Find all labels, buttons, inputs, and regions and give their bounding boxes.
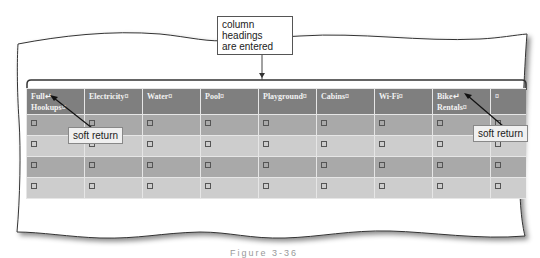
callout-soft-return-right: soft return bbox=[473, 125, 528, 142]
callout-soft-return-left: soft return bbox=[68, 127, 123, 144]
callout-column-headings: column headings are entered bbox=[217, 16, 293, 55]
figure-caption: Figure 3-36 bbox=[230, 248, 298, 258]
